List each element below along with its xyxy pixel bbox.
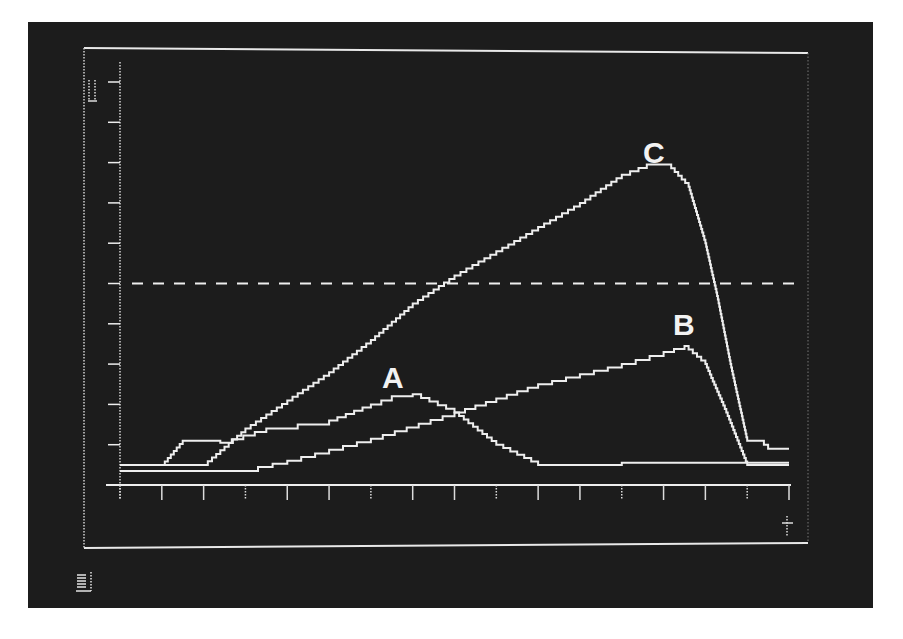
frame-bottom-line xyxy=(84,543,808,548)
bracket-glyph-icon xyxy=(88,80,97,101)
curve-label-a: A xyxy=(382,361,404,394)
curve-label-c: C xyxy=(643,136,665,169)
curve-label-b: B xyxy=(673,308,695,341)
plus-glyph-icon xyxy=(782,516,793,536)
frame-top-line xyxy=(84,48,808,53)
bar-glyph-icon xyxy=(76,572,91,591)
chart: A B C xyxy=(0,0,903,639)
